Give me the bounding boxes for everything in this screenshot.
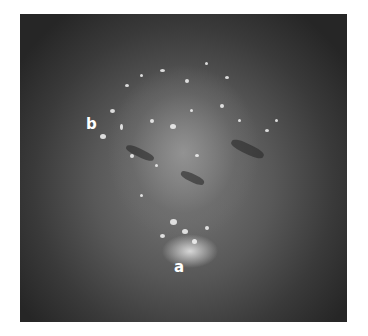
- label-b: b: [86, 117, 97, 132]
- label-a: a: [174, 260, 184, 275]
